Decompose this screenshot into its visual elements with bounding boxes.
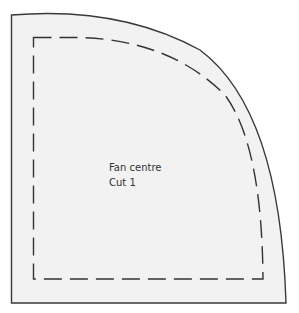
pattern-label: Fan centre Cut 1	[109, 160, 161, 190]
cut-instruction: Cut 1	[109, 175, 161, 190]
pattern-name: Fan centre	[109, 160, 161, 175]
pattern-outline	[12, 13, 287, 303]
fan-centre-pattern-piece	[0, 0, 299, 313]
